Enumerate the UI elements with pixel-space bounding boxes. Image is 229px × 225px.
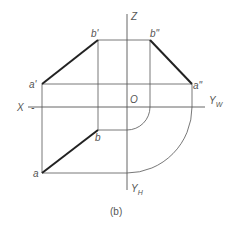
z-label: Z xyxy=(130,11,138,22)
figure-caption: (b) xyxy=(110,206,122,217)
origin-label: O xyxy=(130,94,138,105)
projection-diagram: Z X - YW YH O b' b" a' a" b a (b) xyxy=(0,0,229,225)
x-tick: - xyxy=(31,102,35,113)
a-label: a xyxy=(33,168,39,179)
b-prime-label: b' xyxy=(91,28,100,39)
b-label: b xyxy=(95,132,101,143)
a-double-prime-label: a" xyxy=(193,80,203,91)
yh-label: YH xyxy=(131,183,144,196)
b-double-prime-label: b" xyxy=(150,28,160,39)
line-projections xyxy=(42,40,192,173)
x-label: X xyxy=(16,102,24,113)
a-prime-label: a' xyxy=(29,79,38,90)
yw-label: YW xyxy=(209,95,224,108)
